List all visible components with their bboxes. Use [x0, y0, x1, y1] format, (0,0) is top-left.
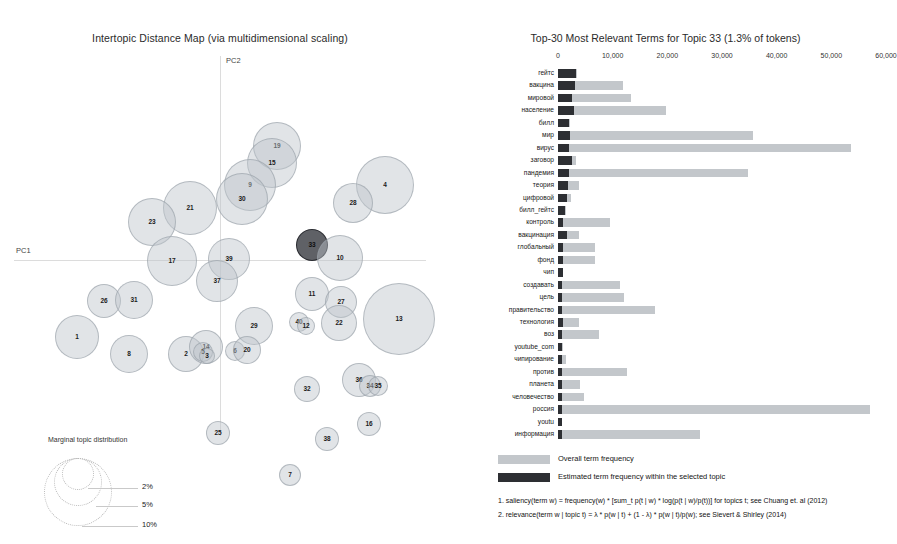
bar-row[interactable]: вакцинация	[558, 230, 886, 240]
top-terms-bar-chart: 010,00020,00030,00040,00050,00060,000 ге…	[440, 52, 891, 452]
bar-overall-frequency	[558, 131, 753, 140]
topic-bubble-11[interactable]: 11	[295, 277, 329, 311]
term-label: чипирование	[514, 354, 554, 364]
footnote-saliency: 1. saliency(term w) = frequency(w) * [su…	[498, 497, 827, 504]
term-label: заговор	[531, 155, 554, 165]
bar-overall-frequency	[558, 281, 620, 290]
topic-bubble-label: 1	[75, 334, 79, 341]
intertopic-distance-panel: Intertopic Distance Map (via multidimens…	[0, 0, 440, 544]
bar-overall-frequency	[558, 243, 595, 252]
bar-topic-frequency	[558, 181, 568, 190]
term-label: против	[533, 367, 554, 377]
topic-bubble-3[interactable]: 3	[199, 348, 215, 364]
bar-row[interactable]: против	[558, 367, 886, 377]
topic-bubble-10[interactable]: 10	[317, 235, 363, 281]
bar-row[interactable]: воз	[558, 329, 886, 339]
topic-bubble-35[interactable]: 35	[368, 376, 388, 396]
topic-bubble-7[interactable]: 7	[279, 464, 301, 486]
bar-row[interactable]: глобальный	[558, 242, 886, 252]
bar-topic-frequency	[558, 194, 567, 203]
bar-row[interactable]: создавать	[558, 280, 886, 290]
marginal-circle-2pct	[62, 458, 94, 490]
term-label: правительство	[509, 305, 554, 315]
bar-row[interactable]: цель	[558, 292, 886, 302]
topic-bubble-22[interactable]: 22	[321, 305, 357, 341]
topic-bubble-8[interactable]: 8	[110, 335, 148, 373]
topic-bubble-30[interactable]: 30	[216, 173, 268, 225]
bar-topic-frequency	[558, 156, 572, 165]
topic-bubble-32[interactable]: 32	[294, 376, 320, 402]
topic-bubble-label: 4	[383, 182, 387, 189]
marginal-label-10pct: 10%	[142, 520, 157, 529]
x-tick-label-0: 0	[556, 52, 560, 59]
bar-row[interactable]: фонд	[558, 255, 886, 265]
bar-row[interactable]: контроль	[558, 217, 886, 227]
bar-overall-frequency	[558, 330, 599, 339]
bar-topic-frequency	[558, 119, 569, 128]
topic-bubble-label: 26	[100, 298, 107, 305]
bar-row[interactable]: пандемия	[558, 168, 886, 178]
bar-row[interactable]: население	[558, 105, 886, 115]
bar-row[interactable]: билл	[558, 118, 886, 128]
topic-bubble-12[interactable]: 12	[297, 317, 315, 335]
bar-row[interactable]: технология	[558, 317, 886, 327]
marginal-legend-title: Marginal topic distribution	[48, 436, 127, 443]
term-label: контроль	[526, 217, 554, 227]
bar-row[interactable]: youtube_com	[558, 342, 886, 352]
marginal-label-2pct: 2%	[142, 482, 153, 491]
bar-row[interactable]: чип	[558, 267, 886, 277]
term-label: цель	[540, 292, 554, 302]
bar-row[interactable]: информация	[558, 429, 886, 439]
topic-bubble-label: 38	[323, 436, 330, 443]
topic-bubble-31[interactable]: 31	[115, 281, 153, 319]
term-label: россия	[533, 404, 554, 414]
term-label: вакцина	[529, 80, 554, 90]
top-terms-panel: Top-30 Most Relevant Terms for Topic 33 …	[440, 0, 891, 544]
topic-bubble-label: 33	[308, 242, 315, 249]
bar-topic-frequency	[558, 144, 569, 153]
bar-row[interactable]: планета	[558, 379, 886, 389]
bar-row[interactable]: вирус	[558, 143, 886, 153]
term-label: глобальный	[518, 242, 555, 252]
bar-row[interactable]: мировой	[558, 93, 886, 103]
x-tick-label-10000: 10,000	[602, 52, 623, 59]
marginal-rule-5pct	[96, 506, 138, 507]
bar-row[interactable]: цифровой	[558, 193, 886, 203]
topic-bubble-28[interactable]: 28	[333, 183, 373, 223]
topic-bubble-label: 32	[303, 386, 310, 393]
bar-row[interactable]: чипирование	[558, 354, 886, 364]
legend-label-overall: Overall term frequency	[558, 454, 634, 463]
topic-bubble-1[interactable]: 1	[55, 315, 99, 359]
bar-row[interactable]: билл_гейтс	[558, 205, 886, 215]
topic-bubble-38[interactable]: 38	[315, 427, 339, 451]
bar-row[interactable]: россия	[558, 404, 886, 414]
topic-bubble-16[interactable]: 16	[357, 412, 381, 436]
topic-bubble-37[interactable]: 37	[196, 260, 238, 302]
bar-row[interactable]: мир	[558, 130, 886, 140]
bar-row[interactable]: youtu	[558, 417, 886, 427]
bar-topic-frequency	[558, 256, 563, 265]
topic-bubble-label: 20	[243, 347, 250, 354]
pc1-axis-label: PC1	[16, 246, 31, 255]
topic-bubble-label: 3	[205, 353, 209, 360]
bar-row[interactable]: заговор	[558, 155, 886, 165]
term-label: планета	[529, 379, 554, 389]
term-label: билл	[539, 118, 554, 128]
bar-row[interactable]: правительство	[558, 305, 886, 315]
bar-topic-frequency	[558, 106, 574, 115]
pc2-axis-label: PC2	[226, 56, 241, 65]
topic-bubble-label: 13	[395, 316, 402, 323]
topic-bubble-20[interactable]: 20	[233, 336, 261, 364]
intertopic-map-canvas[interactable]: PC2 PC1 19159304282123173937331011271326…	[14, 56, 426, 436]
bar-row[interactable]: человечество	[558, 392, 886, 402]
topic-bubble-13[interactable]: 13	[363, 283, 435, 355]
bar-row[interactable]: вакцина	[558, 80, 886, 90]
bar-row[interactable]: гейтс	[558, 68, 886, 78]
term-label: население	[521, 105, 554, 115]
term-label: информация	[515, 429, 554, 439]
bar-row[interactable]: теория	[558, 180, 886, 190]
bar-topic-frequency	[558, 69, 576, 78]
topic-bubble-17[interactable]: 17	[147, 236, 197, 286]
term-label: билл_гейтс	[519, 205, 554, 215]
legend-swatch-overall	[498, 455, 550, 464]
